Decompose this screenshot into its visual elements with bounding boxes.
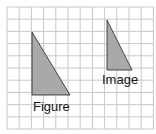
grid-diagram: Figure Image xyxy=(0,0,156,134)
figure-triangle xyxy=(32,32,70,95)
figure-label: Figure xyxy=(33,99,70,114)
image-label: Image xyxy=(102,72,138,87)
image-triangle xyxy=(107,20,132,70)
